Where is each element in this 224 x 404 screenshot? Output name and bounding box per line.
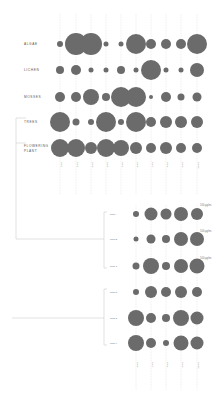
bubble-matrix-chart: ALGAE LICHEN MOSSES TREES FLOWERING PLAN…: [0, 0, 224, 404]
bubble: [133, 263, 140, 270]
row-label-algae: ALGAE: [24, 42, 38, 46]
lower-group-2-bracket: [104, 289, 107, 345]
column-label: Col 3: [92, 162, 94, 168]
bubble: [134, 237, 139, 242]
bubble: [187, 34, 207, 54]
bubble: [146, 338, 156, 348]
bubble: [88, 119, 94, 125]
bubble: [146, 117, 156, 127]
bubble: [56, 66, 64, 74]
bottom-row-label: Row E: [110, 317, 117, 320]
bubble: [128, 335, 144, 351]
bubble: [176, 143, 186, 153]
bubble: [133, 211, 139, 217]
column-label: Col 6: [137, 362, 139, 368]
bubble: [104, 68, 109, 73]
column-label: Col 2: [77, 162, 79, 168]
bubble: [191, 312, 204, 325]
column-label: Col 8: [167, 362, 169, 368]
bubble: [178, 94, 185, 101]
bubble: [80, 33, 102, 55]
bubble: [174, 232, 188, 246]
bubble: [96, 112, 116, 132]
bubble: [163, 340, 169, 346]
row-label-mosses: MOSSES: [24, 95, 41, 99]
top-bubbles: [50, 33, 207, 157]
bubble: [141, 60, 161, 80]
column-label: Col 6: [137, 162, 139, 168]
bubble: [162, 314, 170, 322]
bubble: [161, 209, 172, 220]
bubble: [133, 289, 139, 295]
column-label: Col 1: [61, 162, 63, 168]
bubble: [97, 139, 115, 157]
bubble: [174, 207, 188, 221]
bubble: [190, 232, 204, 246]
top-column-labels: Col 1Col 2Col 3Col 4Col 5Col 6Col 7Col 8…: [61, 162, 200, 169]
row-label-flowering: FLOWERING: [24, 144, 49, 148]
bubble: [174, 259, 188, 273]
bottom-row-label: Row B: [110, 238, 117, 241]
bottom-row-label: Row C: [110, 265, 117, 268]
column-label: Col 9: [182, 162, 184, 168]
bubble: [113, 140, 129, 156]
row-label-plant: PLANT: [24, 149, 37, 153]
bubble: [162, 262, 170, 270]
bubble: [164, 68, 169, 73]
bubble: [191, 208, 203, 220]
bubble: [118, 119, 124, 125]
bubble: [146, 143, 156, 153]
row-labels: ALGAE LICHEN MOSSES TREES FLOWERING PLAN…: [24, 42, 49, 153]
bottom-row-label: Row F: [110, 342, 117, 345]
bubble: [192, 287, 202, 297]
bubble: [128, 310, 144, 326]
unit-label-2: 100 µg/m³: [200, 229, 212, 233]
bubble: [160, 142, 172, 154]
lower-group-1-bracket: [104, 212, 107, 268]
bottom-row-label: Row A: [110, 213, 117, 216]
bubble: [179, 68, 184, 73]
bubble: [51, 139, 69, 157]
bubble: [147, 235, 156, 244]
unit-label-1: 100 µg/m³: [200, 203, 212, 207]
bubble: [192, 143, 202, 153]
bubble: [191, 116, 203, 128]
bubble: [130, 142, 142, 154]
bubble: [193, 93, 202, 102]
bubble: [190, 63, 204, 77]
bubble: [175, 116, 187, 128]
bubble: [55, 92, 65, 102]
bottom-row-labels: Row ARow BRow CRow DRow ERow F: [110, 213, 117, 345]
bubble: [67, 139, 85, 157]
unit-label-3: 100 µg/m³: [200, 256, 212, 260]
column-label: Col 9: [182, 362, 184, 368]
bubble: [175, 286, 187, 298]
bubble: [134, 68, 139, 73]
column-label: Col 5: [122, 162, 124, 168]
bubble: [162, 235, 170, 243]
column-label: Col 4: [107, 162, 109, 168]
column-label: Col 7: [152, 362, 154, 368]
bottom-column-labels: Col 6Col 7Col 8Col 9Col 10: [137, 362, 200, 369]
row-label-lichen: LICHEN: [24, 68, 39, 72]
bubble: [191, 337, 204, 350]
bubble: [145, 286, 157, 298]
bubble: [119, 42, 124, 47]
bubble: [126, 112, 146, 132]
bubble: [71, 92, 81, 102]
column-label: Col 10: [198, 362, 200, 369]
bubble: [50, 112, 70, 132]
bubble: [143, 258, 159, 274]
bubble: [146, 313, 156, 323]
bottom-row-label: Row D: [110, 291, 117, 294]
bubble: [71, 65, 81, 75]
bottom-grid-lines: [136, 205, 197, 390]
bubble: [146, 39, 156, 49]
bubble: [57, 41, 63, 47]
bubble: [89, 68, 94, 73]
bubble: [145, 208, 158, 221]
bubble: [176, 39, 186, 49]
bubble: [104, 42, 109, 47]
bubble: [126, 34, 146, 54]
bubble: [174, 336, 189, 351]
